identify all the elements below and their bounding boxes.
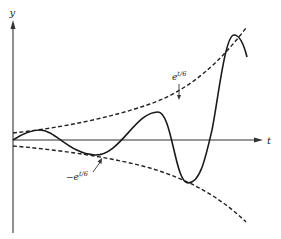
upper-pointer-arrowhead-icon (177, 95, 181, 100)
oscillating-solution-curve (13, 35, 247, 183)
y-axis-label: y (9, 7, 16, 18)
svg-text:et/6: et/6 (172, 70, 186, 82)
t-axis-arrowhead-icon (254, 138, 263, 143)
y-axis: y (9, 7, 16, 233)
y-axis-arrowhead-icon (11, 20, 16, 29)
oscillation-envelope-diagram: y t et/6 −et/6 (0, 0, 281, 239)
lower-envelope-annotation: −et/6 (66, 158, 102, 182)
t-axis: t (13, 135, 272, 146)
upper-envelope-curve (13, 28, 246, 133)
lower-envelope-curve (13, 146, 246, 222)
lower-envelope-label: −e (66, 172, 79, 182)
lower-envelope-exponent: t/6 (79, 170, 88, 178)
upper-envelope-exponent: t/6 (177, 70, 186, 78)
t-axis-label: t (267, 135, 272, 146)
upper-envelope-annotation: et/6 (172, 70, 186, 100)
svg-text:−et/6: −et/6 (66, 170, 88, 182)
diagram-canvas: y t et/6 −et/6 (0, 0, 281, 239)
